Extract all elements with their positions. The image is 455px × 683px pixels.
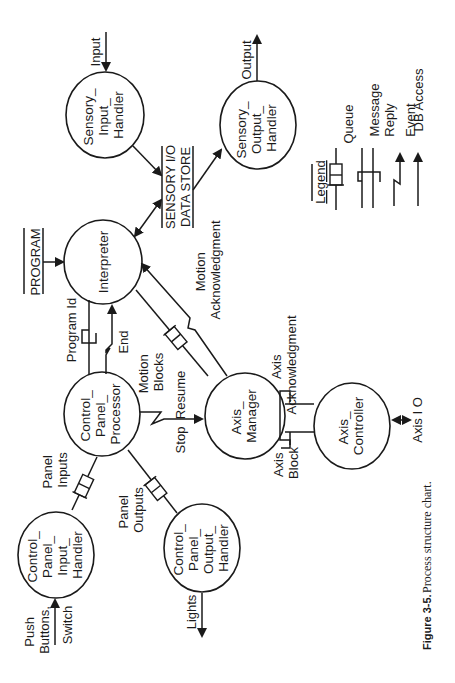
flow-store-to-soh (193, 150, 221, 190)
svg-text:Input: Input (88, 37, 103, 66)
flow-push-buttons-switch: Push Buttons, Switch (22, 600, 75, 654)
node-control-panel-input-handler: Control_ Panel_ Input_ Handler (18, 512, 94, 598)
node-axis-controller: Axis_ Controller (314, 383, 390, 469)
svg-text:Motion Blocks: Motion Blocks (136, 351, 166, 394)
figure-caption: Figure 3-5. Process structure chart. (420, 481, 434, 650)
flow-program-id: Program Id (64, 298, 96, 374)
flow-panel-outputs: Panel Outputs (116, 450, 177, 533)
event-icon (394, 154, 400, 206)
message-icon (358, 148, 366, 208)
svg-text:Control_ Panel_ Pr: Control_ Panel_ Processor (78, 383, 123, 444)
flow-sih-to-store (133, 146, 161, 175)
svg-text:Process structure chart.: Process structure chart. (420, 481, 434, 593)
svg-text:Sensory_ Output_ H: Sensory_ Output_ Handler (234, 98, 279, 159)
flow-store-interpreter (135, 200, 161, 236)
data-store-sensory-io: SENSORY I/O DATA STORE (162, 145, 193, 229)
svg-text:Resume: Resume (173, 371, 188, 419)
svg-text:Queue: Queue (341, 104, 356, 143)
svg-text:Axis Block: Axis Block (271, 447, 301, 479)
svg-text:Figure 3-5.: Figure 3-5. (421, 594, 433, 650)
svg-text:Stop: Stop (173, 427, 188, 454)
node-control-panel-processor: Control_ Panel_ Processor (64, 372, 140, 456)
svg-text:Reply: Reply (382, 103, 397, 137)
svg-text:DATA STORE: DATA STORE (178, 147, 193, 228)
svg-text:Program Id: Program Id (64, 298, 79, 362)
svg-text:DB Access: DB Access (411, 68, 426, 131)
reply-icon (366, 148, 380, 208)
svg-text:SENSORY I/O: SENSORY I/O (163, 145, 178, 229)
node-axis-manager: Axis_ Manager (205, 373, 285, 459)
legend: Legend Queue Message Reply Event (312, 68, 426, 210)
svg-text:Output: Output (239, 40, 254, 79)
flow-end: End (106, 306, 131, 374)
flow-output: Output (239, 36, 257, 81)
flow-motion-blocks: Motion Blocks (136, 290, 208, 393)
flow-motion-ack: Motion Acknowledgment (142, 220, 227, 376)
svg-text:End: End (116, 330, 131, 353)
flow-input: Input (88, 32, 106, 70)
svg-text:Panel Inputs: Panel Inputs (40, 452, 70, 489)
svg-text:Interpreter: Interpreter (96, 230, 111, 293)
svg-text:Axis I O: Axis I O (410, 397, 425, 443)
svg-text:Control_ Panel_ Ou: Control_ Panel_ Output_ Handler (171, 521, 231, 576)
svg-text:Control_ Panel_ In: Control_ Panel_ Input_ Handler (25, 528, 85, 583)
node-sensory-input-handler: Sensory_ Input_ Handler (66, 72, 144, 158)
svg-text:Lights: Lights (184, 594, 199, 629)
svg-text:Switch: Switch (60, 606, 75, 644)
svg-text:Legend: Legend (313, 160, 328, 203)
svg-text:PROGRAM: PROGRAM (28, 228, 43, 295)
node-interpreter: Interpreter (64, 220, 142, 304)
svg-text:Panel Outputs: Panel Outputs (116, 487, 146, 533)
svg-text:Motion Acknowledgment: Motion Acknowledgment (193, 220, 223, 319)
node-control-panel-output-handler: Control_ Panel_ Output_ Handler (164, 504, 240, 592)
svg-text:Push Buttons,: Push Buttons, (22, 606, 52, 654)
process-structure-chart: Sensory_ Input_ Handler Sensory_ Output_… (0, 0, 455, 683)
data-store-program: PROGRAM (24, 228, 43, 296)
queue-icon (328, 148, 344, 210)
flow-panel-inputs: Panel Inputs (40, 452, 97, 510)
flow-lights: Lights (184, 593, 202, 636)
svg-text:Message: Message (367, 84, 382, 137)
flow-axis-io: Axis I O (393, 397, 425, 443)
node-sensory-output-handler: Sensory_ Output_ Handler (220, 81, 296, 169)
